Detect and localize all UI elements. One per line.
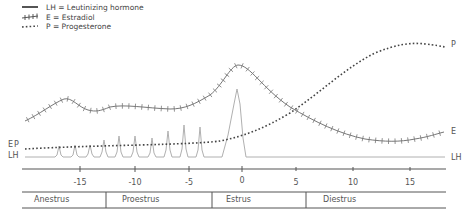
phase-anestrus: Anestrus [34, 195, 69, 204]
legend-item-estradiol: E = Estradiol [20, 13, 144, 23]
label-lh-right: LH [451, 153, 461, 162]
legend-label-estradiol: E = Estradiol [46, 13, 95, 23]
phase-estrus: Estrus [226, 195, 251, 204]
legend-item-lh: LH = Leutinizing hormone [20, 3, 144, 13]
tick-label: -15 [73, 178, 86, 187]
legend: LH = Leutinizing hormone E = Estradiol P… [20, 3, 144, 32]
label-lh-left: LH [8, 151, 18, 160]
legend-item-progesterone: P = Progesterone [20, 22, 144, 32]
label-p-right: P [451, 40, 456, 49]
dotted-line-icon [20, 22, 40, 31]
tick-label: 5 [293, 178, 298, 187]
phase-diestrus: Diestrus [323, 195, 356, 204]
lh-curve [25, 89, 445, 157]
tick-label: 15 [405, 178, 415, 187]
label-e-left: E [8, 140, 13, 149]
hormone-cycle-diagram [0, 0, 473, 220]
progesterone-curve [25, 43, 445, 149]
tick-label: 10 [348, 178, 358, 187]
estradiol-hatch-marks [26, 63, 440, 144]
hatched-line-icon [20, 13, 40, 22]
solid-line-icon [20, 3, 40, 12]
tick-label: 0 [239, 176, 244, 185]
label-e-right: E [451, 127, 456, 136]
tick-label: -5 [185, 178, 193, 187]
tick-label: -10 [128, 178, 141, 187]
legend-label-progesterone: P = Progesterone [46, 22, 111, 32]
legend-label-lh: LH = Leutinizing hormone [46, 3, 144, 13]
label-p-left: P [14, 140, 19, 149]
phase-proestrus: Proestrus [122, 195, 159, 204]
